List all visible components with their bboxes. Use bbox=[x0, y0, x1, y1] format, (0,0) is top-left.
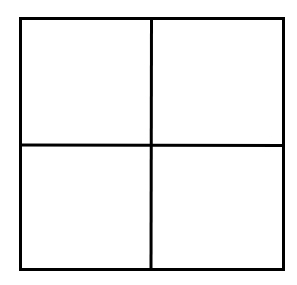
two-by-two-grid bbox=[0, 0, 297, 285]
grid-horizontal-divider bbox=[20, 145, 284, 146]
